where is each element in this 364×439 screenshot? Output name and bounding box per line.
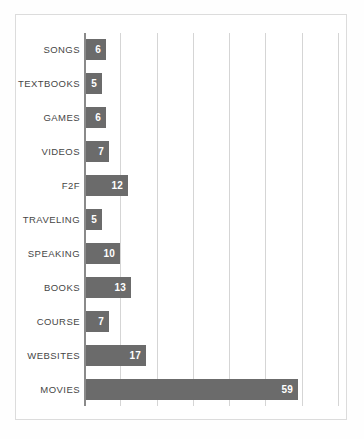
category-label-speaking: SPEAKING <box>28 243 80 264</box>
bar-row: 13 <box>84 277 131 298</box>
category-label-websites: WEBSITES <box>27 345 80 366</box>
bar-traveling[interactable]: 5 <box>84 209 102 230</box>
bar-row: 59 <box>84 379 298 400</box>
bar-value-label: 17 <box>129 345 141 366</box>
bar-row: 7 <box>84 311 109 332</box>
bar-value-label: 13 <box>114 277 126 298</box>
bar-value-label: 7 <box>98 141 104 162</box>
category-label-f2f: F2F <box>62 175 80 196</box>
category-label-movies: MOVIES <box>40 379 80 400</box>
bar-value-label: 5 <box>91 209 97 230</box>
bar-books[interactable]: 13 <box>84 277 131 298</box>
bar-row: 6 <box>84 107 106 128</box>
category-label-videos: VIDEOS <box>41 141 80 162</box>
bar-value-label: 6 <box>95 39 101 60</box>
bar-value-label: 12 <box>111 175 123 196</box>
bar-videos[interactable]: 7 <box>84 141 109 162</box>
gridline-70 <box>338 33 339 406</box>
bar-row: 10 <box>84 243 120 264</box>
bar-value-label: 10 <box>103 243 115 264</box>
bar-f2f[interactable]: 12 <box>84 175 128 196</box>
category-label-books: BOOKS <box>44 277 80 298</box>
bar-row: 5 <box>84 209 102 230</box>
bar-games[interactable]: 6 <box>84 107 106 128</box>
bar-chart: 6567125101371759 SONGSTEXTBOOKSGAMESVIDE… <box>0 0 364 439</box>
bar-group: 6567125101371759 <box>84 33 338 406</box>
bar-value-label: 7 <box>98 311 104 332</box>
bar-textbooks[interactable]: 5 <box>84 73 102 94</box>
bar-row: 12 <box>84 175 128 196</box>
bar-websites[interactable]: 17 <box>84 345 146 366</box>
plot-area: 6567125101371759 <box>84 33 338 406</box>
category-label-textbooks: TEXTBOOKS <box>18 73 80 94</box>
category-label-course: COURSE <box>37 311 80 332</box>
bar-row: 17 <box>84 345 146 366</box>
category-label-group: SONGSTEXTBOOKSGAMESVIDEOSF2FTRAVELINGSPE… <box>0 33 80 406</box>
bar-value-label: 6 <box>95 107 101 128</box>
bar-row: 5 <box>84 73 102 94</box>
category-label-games: GAMES <box>43 107 80 128</box>
bar-row: 6 <box>84 39 106 60</box>
bar-movies[interactable]: 59 <box>84 379 298 400</box>
bar-songs[interactable]: 6 <box>84 39 106 60</box>
category-label-songs: SONGS <box>43 39 80 60</box>
bar-speaking[interactable]: 10 <box>84 243 120 264</box>
bar-value-label: 59 <box>281 379 293 400</box>
bar-row: 7 <box>84 141 109 162</box>
category-label-traveling: TRAVELING <box>23 209 80 230</box>
bar-course[interactable]: 7 <box>84 311 109 332</box>
bar-value-label: 5 <box>91 73 97 94</box>
category-axis-line <box>84 33 86 406</box>
